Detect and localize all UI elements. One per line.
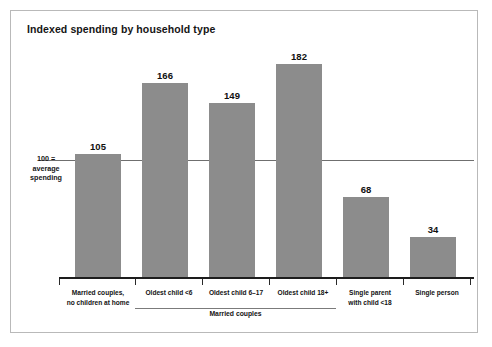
category-label-line: with child <18 <box>325 298 415 308</box>
chart-figure: Indexed spending by household type 100 =… <box>10 10 478 333</box>
category-label-line: no children at home <box>55 298 141 308</box>
group-bracket-line <box>135 308 336 309</box>
group-bracket-label: Married couples <box>135 310 336 317</box>
category-labels: Married couples, no children at home Old… <box>11 11 477 332</box>
category-label: Single person <box>392 288 482 298</box>
category-label-line: Single person <box>392 288 482 298</box>
plot-area: 100 = average spending 105 166 149 182 6… <box>11 11 477 332</box>
